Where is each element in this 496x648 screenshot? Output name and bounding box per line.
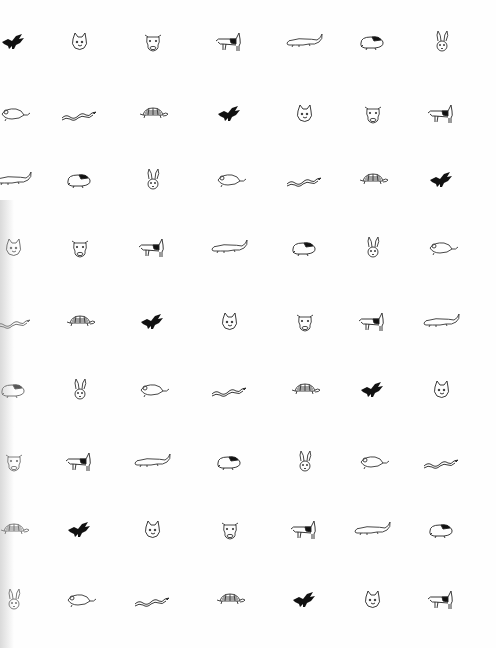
turtle-icon: turtle	[353, 168, 393, 192]
guinea-pig-icon: guinea-pig	[60, 168, 100, 192]
bird-icon: bird	[353, 378, 393, 402]
cat-icon: cat	[353, 588, 393, 612]
mouse-icon: mouse	[133, 378, 173, 402]
cow-icon: cow	[0, 450, 34, 474]
bird-icon: bird	[422, 168, 462, 192]
mouse-icon: mouse	[353, 450, 393, 474]
guinea-pig-icon: guinea-pig	[285, 236, 325, 260]
guinea-pig-icon: guinea-pig	[353, 30, 393, 54]
snake-icon: snake	[210, 378, 250, 402]
dog-icon: dog	[133, 236, 173, 260]
rabbit-icon: rabbit	[0, 588, 34, 612]
snake-icon: snake	[0, 310, 34, 334]
cat-icon: cat	[133, 518, 173, 542]
turtle-icon: turtle	[0, 518, 34, 542]
alligator-icon: alligator	[210, 236, 250, 260]
alligator-icon: alligator	[353, 518, 393, 542]
mouse-icon: mouse	[0, 102, 34, 126]
alligator-icon: alligator	[422, 310, 462, 334]
turtle-icon: turtle	[210, 588, 250, 612]
mouse-icon: mouse	[210, 168, 250, 192]
bird-icon: bird	[133, 310, 173, 334]
cat-icon: cat	[422, 378, 462, 402]
alligator-icon: alligator	[285, 30, 325, 54]
cow-icon: cow	[133, 30, 173, 54]
turtle-icon: turtle	[133, 102, 173, 126]
bird-icon: bird	[285, 588, 325, 612]
snake-icon: snake	[422, 450, 462, 474]
dog-icon: dog	[422, 588, 462, 612]
bird-icon: bird	[210, 102, 250, 126]
cat-icon: cat	[210, 310, 250, 334]
snake-icon: snake	[60, 102, 100, 126]
cow-icon: cow	[285, 310, 325, 334]
guinea-pig-icon: guinea-pig	[210, 450, 250, 474]
guinea-pig-icon: guinea-pig	[422, 518, 462, 542]
rabbit-icon: rabbit	[353, 236, 393, 260]
mouse-icon: mouse	[60, 588, 100, 612]
turtle-icon: turtle	[60, 310, 100, 334]
cow-icon: cow	[353, 102, 393, 126]
cat-icon: cat	[60, 30, 100, 54]
mouse-icon: mouse	[422, 236, 462, 260]
alligator-icon: alligator	[0, 168, 34, 192]
snake-icon: snake	[285, 168, 325, 192]
dog-icon: dog	[210, 30, 250, 54]
cow-icon: cow	[210, 518, 250, 542]
turtle-icon: turtle	[285, 378, 325, 402]
cat-icon: cat	[285, 102, 325, 126]
cow-icon: cow	[60, 236, 100, 260]
bird-icon: bird	[60, 518, 100, 542]
alligator-icon: alligator	[133, 450, 173, 474]
dog-icon: dog	[422, 102, 462, 126]
snake-icon: snake	[133, 588, 173, 612]
dog-icon: dog	[285, 518, 325, 542]
bird-icon: bird	[0, 30, 34, 54]
guinea-pig-icon: guinea-pig	[0, 378, 34, 402]
rabbit-icon: rabbit	[422, 30, 462, 54]
rabbit-icon: rabbit	[285, 450, 325, 474]
cat-icon: cat	[0, 236, 34, 260]
rabbit-icon: rabbit	[133, 168, 173, 192]
animal-sticker-grid: birdcatcowdogalligatorguinea-pigrabbitmo…	[0, 0, 496, 648]
dog-icon: dog	[60, 450, 100, 474]
rabbit-icon: rabbit	[60, 378, 100, 402]
dog-icon: dog	[353, 310, 393, 334]
